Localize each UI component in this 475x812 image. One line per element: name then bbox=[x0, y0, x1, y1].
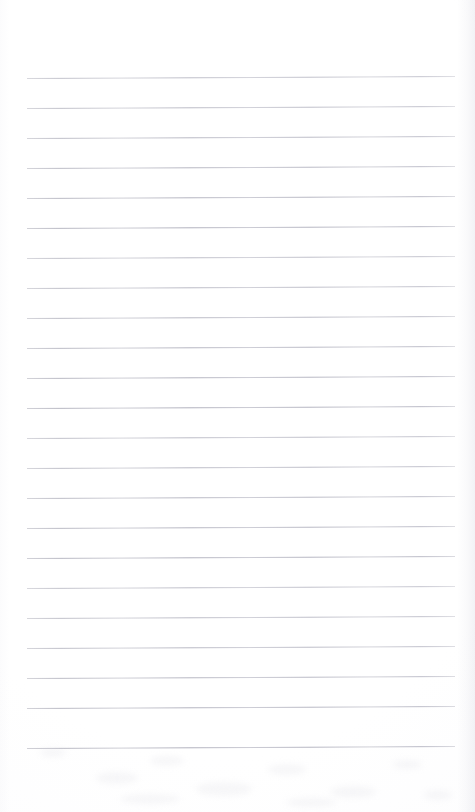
ruled-lines-group bbox=[0, 0, 475, 812]
scan-smudge bbox=[150, 756, 184, 766]
ruled-line bbox=[27, 676, 455, 679]
ruled-line bbox=[27, 286, 455, 289]
ruled-line bbox=[27, 746, 455, 749]
scan-smudge bbox=[330, 786, 376, 798]
ruled-line bbox=[27, 466, 455, 469]
scan-smudge bbox=[268, 764, 306, 775]
ruled-line bbox=[27, 76, 455, 79]
ruled-line bbox=[27, 196, 455, 199]
ruled-line bbox=[27, 376, 455, 379]
ruled-line bbox=[27, 226, 455, 229]
ruled-line bbox=[27, 496, 455, 499]
ruled-line bbox=[27, 706, 455, 709]
ruled-line bbox=[27, 106, 455, 109]
scan-smudge bbox=[392, 760, 422, 769]
ruled-line bbox=[27, 136, 455, 139]
right-edge-shadow bbox=[457, 0, 475, 812]
scanned-page bbox=[0, 0, 475, 812]
scan-smudge bbox=[96, 772, 138, 784]
scan-smudge bbox=[286, 798, 336, 807]
ruled-line bbox=[27, 556, 455, 559]
scan-smudge-group bbox=[0, 742, 475, 812]
ruled-line bbox=[27, 616, 455, 619]
top-margin-area bbox=[0, 0, 475, 78]
ruled-line bbox=[27, 256, 455, 259]
ruled-line bbox=[27, 646, 455, 649]
ruled-line bbox=[27, 526, 455, 529]
ruled-line bbox=[27, 316, 455, 319]
left-edge-shadow bbox=[0, 0, 10, 812]
scan-smudge bbox=[424, 790, 452, 800]
ruled-line bbox=[27, 436, 455, 439]
ruled-line bbox=[27, 166, 455, 169]
paper-surface bbox=[0, 0, 475, 812]
scan-smudge bbox=[120, 794, 180, 804]
bottom-margin-area bbox=[0, 748, 475, 812]
ruled-line bbox=[27, 586, 455, 589]
scan-smudge bbox=[196, 782, 252, 796]
scan-smudge bbox=[40, 748, 66, 757]
ruled-line bbox=[27, 346, 455, 349]
ruled-line bbox=[27, 406, 455, 409]
